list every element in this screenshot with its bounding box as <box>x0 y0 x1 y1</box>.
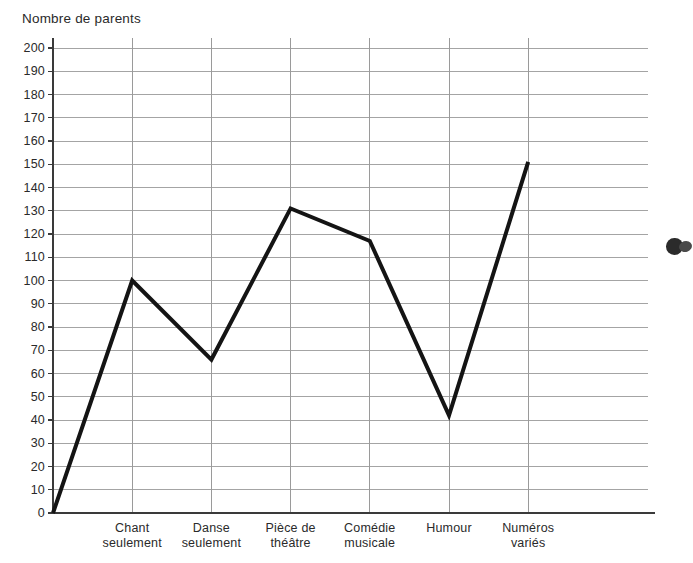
y-axis-tick-label: 60 <box>5 367 45 381</box>
y-axis-tick-label: 90 <box>5 297 45 311</box>
y-axis-tick-label: 130 <box>5 204 45 218</box>
y-axis-ticks <box>48 48 54 513</box>
y-axis-tick-label: 140 <box>5 181 45 195</box>
chart-axes <box>49 38 655 513</box>
y-axis-tick-label: 40 <box>5 413 45 427</box>
y-axis-tick-label: 200 <box>5 41 45 55</box>
y-axis-tick-label: 50 <box>5 390 45 404</box>
y-axis-tick-label: 170 <box>5 111 45 125</box>
y-axis-tick-label: 110 <box>5 250 45 264</box>
horizontal-gridlines <box>53 48 648 490</box>
y-axis-tick-label: 100 <box>5 274 45 288</box>
y-axis-tick-label: 120 <box>5 227 45 241</box>
y-axis-tick-label: 70 <box>5 343 45 357</box>
y-axis-tick-label: 0 <box>5 506 45 520</box>
y-axis-tick-label: 10 <box>5 483 45 497</box>
y-axis-tick-label: 30 <box>5 436 45 450</box>
bullet-blob-icon <box>666 237 692 257</box>
y-axis-tick-label: 160 <box>5 134 45 148</box>
y-axis-tick-label: 180 <box>5 88 45 102</box>
y-axis-tick-label: 150 <box>5 157 45 171</box>
vertical-gridlines <box>132 38 528 513</box>
x-axis-category-label: Numéros variés <box>476 521 580 551</box>
y-axis-tick-label: 80 <box>5 320 45 334</box>
y-axis-tick-label: 190 <box>5 64 45 78</box>
y-axis-tick-label: 20 <box>5 460 45 474</box>
